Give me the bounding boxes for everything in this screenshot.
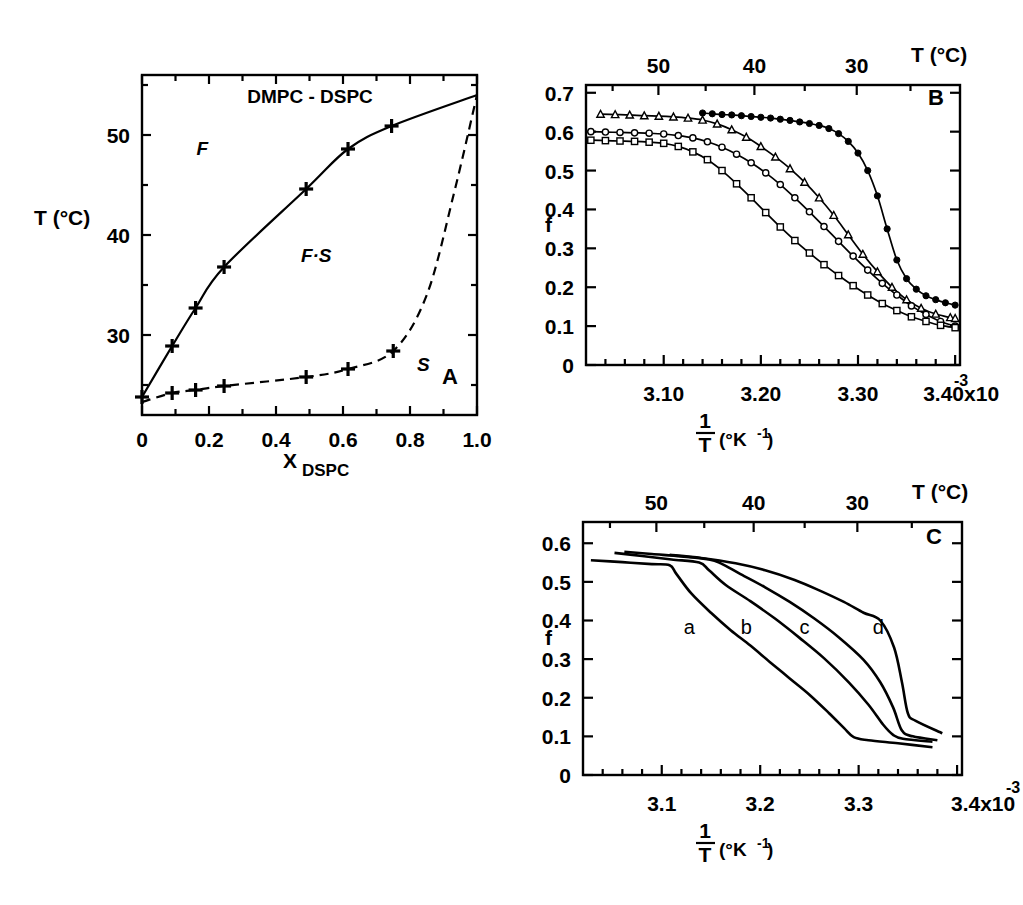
- panel-c-curve-b: [615, 553, 933, 742]
- panel-b-marker-filled-circle: [709, 111, 715, 117]
- panel-b-marker-filled-circle: [767, 115, 773, 121]
- panel-b-marker-open-circle: [661, 131, 667, 137]
- panel-b-marker-open-triangle: [670, 113, 677, 120]
- panel-c-top-tick-label: 50: [645, 491, 668, 514]
- panel-b-x-axis-numerator: 1: [699, 409, 711, 432]
- panel-b-marker-filled-circle: [729, 112, 735, 118]
- panel-b-marker-open-circle: [821, 223, 827, 229]
- panel-b-marker-open-triangle: [655, 112, 662, 119]
- panel-a-y-tick-label: 50: [107, 124, 130, 147]
- panel-b-y-tick-label: 0.2: [545, 276, 574, 299]
- panel-b-marker-filled-circle: [952, 302, 958, 308]
- panel-b-marker-filled-circle: [894, 257, 900, 263]
- panel-b-marker-open-square: [879, 300, 885, 306]
- panel-b-top-tick-labels: 504030: [647, 54, 869, 77]
- panel-b-marker-open-circle: [835, 238, 841, 244]
- panel-c-top-tick-labels: 504030: [645, 491, 869, 514]
- panel-b-marker-open-square: [661, 140, 667, 146]
- panel-b-marker-open-triangle: [743, 133, 750, 140]
- panel-b-y-tick-label: 0.7: [545, 82, 574, 105]
- panel-c-x-axis-label: 1 T (°K -1 ): [696, 819, 773, 866]
- panel-b-x-axis-denominator: T: [699, 433, 712, 456]
- panel-b-marker-filled-circle: [816, 122, 822, 128]
- panel-b-y-tick-label: 0.3: [545, 237, 574, 260]
- panel-b-curve-3: [591, 132, 955, 326]
- panel-c-y-tick-label: 0.2: [542, 687, 571, 710]
- panel-b-marker-filled-circle: [845, 138, 851, 144]
- panel-c-x-tick-label: 3.1: [647, 792, 677, 815]
- panel-b-marker-open-triangle: [641, 112, 648, 119]
- panel-b-marker-open-triangle: [611, 111, 618, 118]
- panel-b-marker-filled-circle: [787, 117, 793, 123]
- panel-a-x-tick-label: 0: [136, 428, 148, 451]
- panel-c-ticks: [583, 522, 962, 775]
- panel-c-x-axis-unit-close: ): [767, 839, 773, 860]
- panel-b-marker-open-square: [719, 167, 725, 173]
- panel-b-marker-filled-circle: [797, 119, 803, 125]
- panel-b-marker-open-square: [748, 195, 754, 201]
- panel-c-y-tick-labels: 00.10.20.30.40.50.6: [542, 532, 572, 787]
- panel-b-marker-open-circle: [763, 170, 769, 176]
- panel-b-top-tick-label: 50: [647, 54, 670, 77]
- panel-b-marker-open-triangle: [713, 120, 720, 127]
- panel-b-marker-open-circle: [719, 144, 725, 150]
- panel-c-curve-a: [591, 560, 933, 747]
- panel-b-y-tick-label: 0.4: [545, 198, 575, 221]
- panel-c-y-tick-label: 0.1: [542, 725, 572, 748]
- panel-b-marker-open-square: [937, 322, 943, 328]
- panel-b-marker-open-triangle: [699, 116, 706, 123]
- panel-b-marker-open-triangle: [728, 126, 735, 133]
- panel-a-x-axis-label-main: X: [283, 449, 297, 472]
- panel-b-marker-open-circle: [617, 129, 623, 135]
- panel-b-marker-filled-circle: [806, 120, 812, 126]
- panel-c-curve-c: [624, 552, 937, 741]
- panel-c-x-axis-unit: (°K: [719, 839, 747, 860]
- panel-a-x-tick-label: 0.8: [395, 428, 425, 451]
- panel-b-marker-open-square: [690, 149, 696, 155]
- panel-a-region-label: F: [196, 138, 209, 159]
- panel-b-marker-open-circle: [588, 129, 594, 135]
- panel-b-marker-open-triangle: [626, 111, 633, 118]
- panel-b-x-axis-label: 1 T (°K -1 ): [696, 409, 773, 456]
- panel-b-marker-open-circle: [704, 139, 710, 145]
- panel-b-marker-open-square: [631, 138, 637, 144]
- panel-b-y-tick-label: 0.5: [545, 160, 575, 183]
- panel-c-curve-label-c: c: [799, 616, 809, 638]
- panel-b-marker-filled-circle: [942, 300, 948, 306]
- panel-b-x-exponent: -3: [954, 372, 968, 389]
- panel-c-curves: [591, 552, 942, 747]
- panel-b: B f 00.10.20.30.40.50.60.7 3.103.203.303…: [545, 43, 999, 456]
- panel-a-x-tick-label: 0.4: [261, 428, 291, 451]
- panel-b-marker-open-circle: [894, 292, 900, 298]
- panel-b-marker-open-square: [865, 292, 871, 298]
- panel-b-y-tick-label: 0: [562, 354, 574, 377]
- panel-b-x-tick-labels: 3.103.203.303.40x10: [643, 382, 999, 405]
- panel-b-marker-open-square: [646, 139, 652, 145]
- panel-b-marker-filled-circle: [865, 167, 871, 173]
- panel-a-region-label: S: [417, 354, 430, 375]
- panel-a-markers: [135, 119, 400, 404]
- panel-c-y-tick-label: 0.6: [542, 532, 571, 555]
- panel-c-top-tick-label: 40: [742, 491, 765, 514]
- panel-b-x-tick-label: 3.10: [643, 382, 684, 405]
- panel-b-marker-open-square: [894, 307, 900, 313]
- panel-b-marker-open-square: [821, 262, 827, 268]
- panel-b-marker-open-circle: [806, 209, 812, 215]
- figure-canvas: DMPC - DSPC A FF·SS 304050 00.20.40.60.8…: [0, 0, 1023, 905]
- panel-b-marker-filled-circle: [738, 113, 744, 119]
- panel-c-frame: [583, 522, 962, 775]
- panel-a-y-tick-label: 40: [107, 224, 130, 247]
- panel-b-marker-open-square: [704, 157, 710, 163]
- panel-a-region-label: F·S: [301, 245, 332, 266]
- panel-b-marker-open-square: [602, 138, 608, 144]
- panel-b-marker-open-triangle: [951, 315, 958, 322]
- panel-b-marker-open-circle: [923, 311, 929, 317]
- panel-b-marker-open-circle: [733, 151, 739, 157]
- panel-b-marker-filled-circle: [903, 276, 909, 282]
- panel-c-y-tick-label: 0.5: [542, 571, 572, 594]
- panel-b-marker-open-circle: [646, 130, 652, 136]
- panel-a-x-tick-labels: 00.20.40.60.81.0: [136, 428, 491, 451]
- panel-b-marker-open-square: [617, 138, 623, 144]
- panel-c-curve-label-d: d: [873, 616, 884, 638]
- panel-b-marker-open-square: [733, 181, 739, 187]
